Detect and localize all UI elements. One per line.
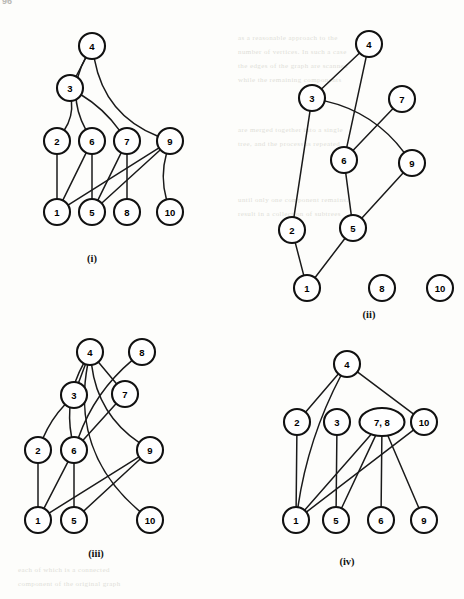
node-3[interactable]: 3 [299, 85, 325, 111]
node-5[interactable]: 5 [79, 199, 105, 225]
graph-canvas: 43267915810(i)43769251810(ii)48372691510… [0, 0, 464, 599]
edge-6-1 [63, 153, 87, 201]
graph-caption-ii: (ii) [363, 309, 376, 321]
node-label: 8 [139, 347, 144, 358]
node-4[interactable]: 4 [79, 33, 105, 59]
node-label: 7, 8 [374, 417, 390, 428]
edge-2-1 [296, 435, 297, 507]
edge-7-6 [353, 108, 393, 150]
node-7[interactable]: 7 [389, 86, 415, 112]
node-label: 4 [344, 359, 350, 370]
edge-9-5 [84, 459, 141, 511]
node-label: 4 [89, 41, 95, 52]
node-label: 7 [399, 94, 404, 105]
node-6[interactable]: 6 [79, 128, 105, 154]
node-8[interactable]: 8 [369, 275, 395, 301]
node-10[interactable]: 10 [411, 409, 437, 435]
node-label: 10 [419, 417, 430, 428]
node-label: 6 [378, 515, 383, 526]
edge-4-9 [94, 59, 158, 136]
node-6[interactable]: 6 [368, 507, 394, 533]
node-label: 2 [294, 417, 299, 428]
node-label: 2 [289, 225, 294, 236]
edge-4-6 [347, 57, 367, 148]
node-1[interactable]: 1 [25, 507, 51, 533]
node-5[interactable]: 5 [61, 507, 87, 533]
node-label: 10 [145, 515, 156, 526]
node-4[interactable]: 4 [356, 31, 382, 57]
node-7[interactable]: 7 [114, 128, 140, 154]
node-label: 2 [35, 445, 40, 456]
node-label: 6 [71, 445, 76, 456]
node-6[interactable]: 6 [61, 437, 87, 463]
node-label: 1 [304, 283, 310, 294]
node-2[interactable]: 2 [44, 128, 70, 154]
node-3[interactable]: 3 [61, 382, 87, 408]
graph-iv-edges [296, 372, 419, 512]
node-1[interactable]: 1 [283, 507, 309, 533]
node-2[interactable]: 2 [25, 437, 51, 463]
graph-caption-iii: (iii) [88, 548, 104, 560]
edge-4-2 [305, 374, 338, 412]
edge-10-1 [306, 430, 413, 512]
node-label: 1 [54, 207, 60, 218]
edge-3-2 [294, 111, 310, 217]
node-2[interactable]: 2 [284, 409, 310, 435]
node-label: 8 [379, 283, 384, 294]
node-label: 1 [35, 515, 41, 526]
node-label: 9 [167, 136, 172, 147]
graph-ii-nodes: 43769251810 [279, 31, 453, 301]
node-1[interactable]: 1 [294, 275, 320, 301]
edge-5-1 [315, 238, 345, 277]
edge-9-1 [49, 457, 139, 513]
node-9[interactable]: 9 [157, 128, 183, 154]
edge-9-10 [163, 154, 166, 200]
node-78[interactable]: 7, 8 [360, 408, 405, 436]
node-5[interactable]: 5 [323, 507, 349, 533]
edge-4-7 [98, 362, 116, 384]
node-label: 7 [122, 389, 127, 400]
edge-4-3 [321, 53, 359, 89]
node-1[interactable]: 1 [44, 199, 70, 225]
node-label: 4 [87, 347, 93, 358]
edge-9-5 [362, 173, 404, 219]
node-3[interactable]: 3 [57, 75, 83, 101]
node-4[interactable]: 4 [334, 351, 360, 377]
node-label: 5 [71, 515, 77, 526]
edge-7-5 [98, 153, 122, 201]
node-9[interactable]: 9 [411, 507, 437, 533]
node-9[interactable]: 9 [399, 150, 425, 176]
figure-sheet: 96 as a reasonable approach to the numbe… [0, 0, 464, 599]
edge-6-1 [44, 462, 68, 509]
node-label: 9 [147, 445, 152, 456]
node-label: 3 [334, 417, 339, 428]
edge-3-2 [43, 404, 65, 438]
node-2[interactable]: 2 [279, 217, 305, 243]
edge-2-1 [295, 243, 304, 276]
node-6[interactable]: 6 [331, 147, 357, 173]
node-label: 5 [350, 223, 356, 234]
node-8[interactable]: 8 [114, 199, 140, 225]
node-label: 3 [71, 390, 76, 401]
node-10[interactable]: 10 [137, 507, 163, 533]
node-10[interactable]: 10 [427, 275, 453, 301]
node-4[interactable]: 4 [77, 339, 103, 365]
edge-3-5 [336, 435, 337, 507]
node-7[interactable]: 7 [112, 381, 138, 407]
node-10[interactable]: 10 [157, 199, 183, 225]
edge-78-1 [305, 434, 372, 510]
node-label: 5 [89, 207, 95, 218]
node-9[interactable]: 9 [137, 437, 163, 463]
node-3[interactable]: 3 [324, 409, 350, 435]
edge-9-1 [68, 148, 159, 205]
node-label: 3 [309, 93, 314, 104]
graph-iv-nodes: 4237, 8101569 [283, 351, 437, 533]
edge-9-5 [102, 150, 161, 204]
node-5[interactable]: 5 [340, 215, 366, 241]
node-label: 7 [124, 136, 129, 147]
node-8[interactable]: 8 [129, 339, 155, 365]
edge-7-6 [83, 404, 117, 441]
node-label: 9 [421, 515, 426, 526]
node-label: 9 [409, 158, 414, 169]
graph-caption-i: (i) [87, 253, 97, 265]
